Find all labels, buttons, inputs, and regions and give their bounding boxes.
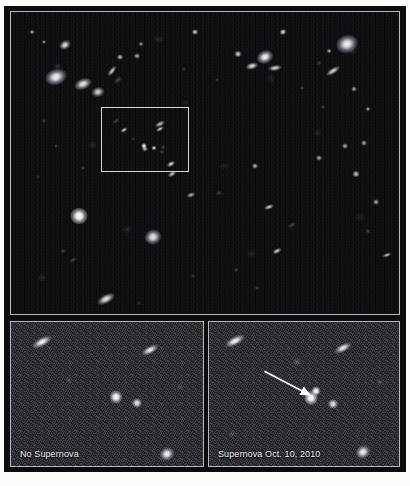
galaxy-object (140, 342, 161, 358)
galaxy-object (158, 444, 177, 463)
galaxy-object (304, 391, 317, 405)
wide-field-panel[interactable] (10, 11, 400, 315)
galaxy-object (353, 443, 372, 462)
before-caption: No Supernova (20, 449, 79, 459)
galaxy-object (152, 146, 157, 150)
galaxy-object (377, 379, 384, 385)
galaxy-object (132, 399, 142, 408)
roi-galaxy-group (11, 12, 399, 314)
galaxy-object (293, 358, 302, 366)
galaxy-object (176, 384, 183, 390)
before-cutout-panel[interactable]: No Supernova (10, 321, 204, 467)
galaxy-object (110, 390, 122, 403)
galaxy-object (328, 400, 338, 409)
galaxy-object (228, 431, 235, 437)
galaxy-object (312, 387, 321, 396)
galaxy-object (155, 125, 165, 133)
before-galaxy-field (11, 322, 203, 466)
galaxy-object (165, 160, 175, 169)
galaxy-object (30, 333, 54, 351)
figure-root: No Supernova Supernova Oct. 10, 2010 (0, 0, 410, 486)
galaxy-object (131, 137, 135, 140)
after-cutout-panel[interactable]: Supernova Oct. 10, 2010 (208, 321, 400, 467)
galaxy-object (333, 340, 354, 356)
after-galaxy-field (209, 322, 399, 466)
galaxy-object (161, 145, 165, 149)
plate-frame: No Supernova Supernova Oct. 10, 2010 (4, 6, 406, 472)
galaxy-object (65, 377, 72, 383)
galaxy-object (223, 332, 247, 350)
galaxy-object (119, 126, 128, 133)
after-caption: Supernova Oct. 10, 2010 (218, 449, 320, 459)
galaxy-object (141, 143, 146, 149)
